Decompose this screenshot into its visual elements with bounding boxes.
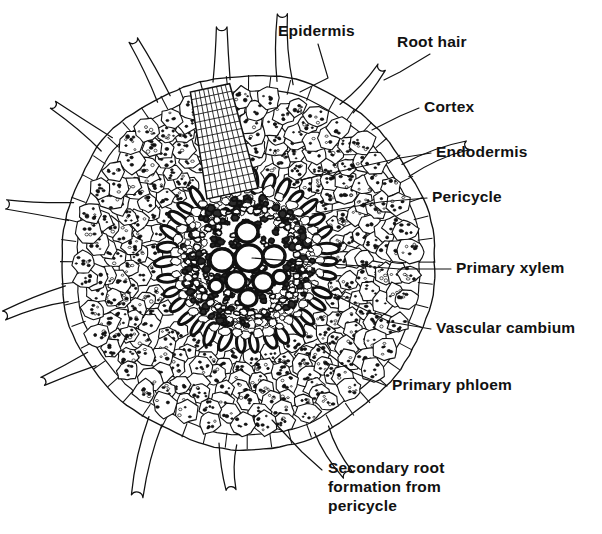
label-primary-xylem: Primary xylem bbox=[456, 259, 565, 277]
label-endodermis: Endodermis bbox=[436, 143, 528, 161]
label-cortex: Cortex bbox=[424, 98, 474, 116]
leader-line-epidermis bbox=[300, 44, 328, 92]
label-epidermis: Epidermis bbox=[278, 22, 355, 40]
label-secondary-root: Secondary root formation from pericycle bbox=[328, 458, 445, 515]
label-primary-phloem: Primary phloem bbox=[392, 376, 512, 394]
label-pericycle: Pericycle bbox=[432, 188, 502, 206]
leader-line-cortex bbox=[372, 108, 419, 130]
leader-line-root-hair bbox=[384, 54, 430, 80]
figure-canvas: EpidermisRoot hairCortexEndodermisPericy… bbox=[0, 0, 602, 534]
label-root-hair: Root hair bbox=[397, 33, 467, 51]
label-vascular-cambium: Vascular cambium bbox=[436, 319, 575, 337]
